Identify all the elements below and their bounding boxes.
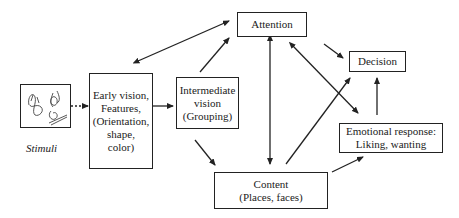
stimuli-box xyxy=(20,84,71,128)
intermediate-line-2: vision xyxy=(194,97,221,110)
edge-intermediate-content xyxy=(195,140,215,165)
intermediate-line-1: Intermediate xyxy=(180,84,236,97)
early-vision-node: Early vision, Features, (Orientation, sh… xyxy=(89,73,153,169)
attention-label: Attention xyxy=(251,18,293,31)
intermediate-line-3: (Grouping) xyxy=(183,110,233,123)
attention-node: Attention xyxy=(237,12,307,37)
decision-node: Decision xyxy=(349,51,406,72)
early-vision-line-4: shape, xyxy=(107,128,135,141)
edge-content-emotional xyxy=(332,157,363,172)
early-vision-line-1: Early vision, xyxy=(93,89,149,102)
emotional-line-1: Emotional response: xyxy=(346,125,436,138)
content-line-1: Content xyxy=(254,178,289,191)
stimuli-caption: Stimuli xyxy=(26,142,57,154)
scribble-icon xyxy=(21,85,70,127)
emotional-response-node: Emotional response: Liking, wanting xyxy=(339,123,443,153)
content-node: Content (Places, faces) xyxy=(214,172,328,209)
early-vision-line-2: Features, xyxy=(101,102,141,115)
edge-intermediate-attention xyxy=(200,38,229,72)
decision-label: Decision xyxy=(358,55,397,68)
early-vision-line-3: (Orientation, xyxy=(93,115,150,128)
edge-attention-decision xyxy=(324,44,343,58)
intermediate-vision-node: Intermediate vision (Grouping) xyxy=(176,77,239,129)
content-line-2: (Places, faces) xyxy=(239,191,303,204)
emotional-line-2: Liking, wanting xyxy=(356,138,426,151)
early-vision-line-5: color) xyxy=(108,141,134,154)
